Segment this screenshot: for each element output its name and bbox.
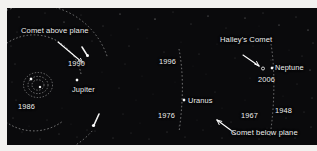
label-year-1990: 1990 (68, 60, 85, 67)
orbital-diagram-figure: Comet above plane 1990 Jupiter 1986 1996… (0, 0, 317, 151)
label-year-1967: 1967 (241, 112, 258, 119)
label-year-1976: 1976 (158, 112, 175, 119)
label-comet-below-plane: Comet below plane (231, 129, 298, 137)
label-year-1996: 1996 (159, 58, 176, 65)
label-jupiter: Jupiter (72, 86, 95, 93)
comet-1986-marker (30, 78, 32, 80)
comet-head-lower (92, 124, 95, 127)
label-uranus: Uranus (188, 97, 212, 104)
label-year-2006: 2006 (258, 76, 275, 83)
comet-head-1990-upper (86, 54, 89, 57)
star-field-panel: Comet above plane 1990 Jupiter 1986 1996… (7, 8, 317, 145)
sun-marker (39, 86, 41, 88)
neptune-marker (271, 67, 273, 69)
uranus-marker (183, 99, 185, 101)
label-halleys-comet: Halley's Comet (220, 36, 272, 44)
label-year-1986: 1986 (18, 103, 35, 110)
label-comet-above-plane: Comet above plane (21, 27, 89, 35)
jupiter-marker (76, 79, 78, 81)
label-neptune: Neptune (275, 64, 304, 71)
label-year-1948: 1948 (275, 107, 292, 114)
